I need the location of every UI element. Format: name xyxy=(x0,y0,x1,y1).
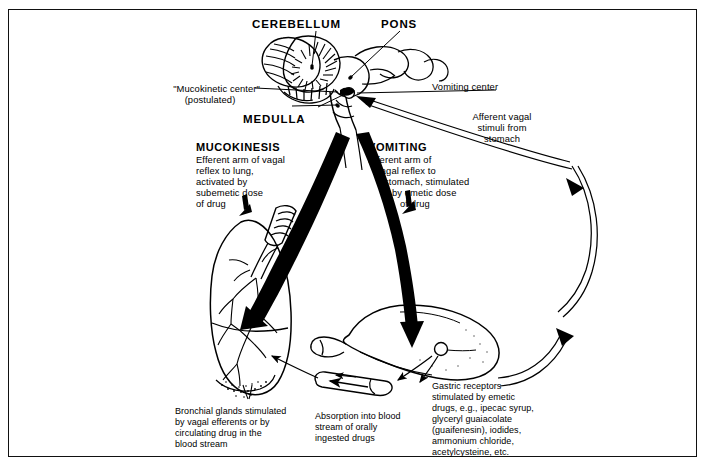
bronchial-line-4: blood stream xyxy=(175,439,228,449)
gastric-line-4: glyceryl guaiacolate xyxy=(432,414,512,424)
mucokinesis-line-2: reflex to lung, xyxy=(196,166,254,177)
drug-capsule-illustration xyxy=(315,372,392,396)
vomiting-line-4: by emetic dose xyxy=(392,188,456,199)
vomiting-heading: VOMITING xyxy=(368,141,427,153)
diagram-artwork xyxy=(0,0,709,467)
gastric-line-6: ammonium chloride, xyxy=(432,436,514,446)
afferent-line-1: Afferent vagal xyxy=(452,112,552,123)
bronchial-line-1: Bronchial glands stimulated xyxy=(175,406,286,416)
mucokinesis-line-1: Efferent arm of vagal xyxy=(196,155,285,166)
label-mucokinetic-center: "Mucokinetic center" xyxy=(148,84,260,95)
absorption-line-2: stream of orally xyxy=(315,422,377,432)
mucokinesis-line-5: of drug xyxy=(196,199,226,210)
afferent-line-3: stomach xyxy=(452,134,552,145)
figure-canvas: CEREBELLUM PONS "Mucokinetic center" (po… xyxy=(0,0,709,467)
mucokinesis-line-3: activated by xyxy=(196,177,247,188)
vomiting-line-3: stomach, stimulated xyxy=(384,177,469,188)
label-medulla: MEDULLA xyxy=(243,113,306,126)
gastric-line-5: (guaifenesin), iodides, xyxy=(432,425,521,435)
gastric-line-7: acetylcysteine, etc. xyxy=(432,447,509,457)
vomiting-line-1: Efferent arm of xyxy=(368,155,431,166)
bronchial-line-3: circulating drug in the xyxy=(175,428,262,438)
gastric-line-2: stimulated by emetic xyxy=(432,392,515,402)
label-pons: PONS xyxy=(381,18,417,31)
connector-arrows xyxy=(272,356,438,382)
absorption-line-3: ingested drugs xyxy=(315,433,375,443)
mucokinesis-heading: MUCOKINESIS xyxy=(196,141,280,153)
afferent-line-2: stimuli from xyxy=(452,123,552,134)
vomiting-line-2: vagal reflex to xyxy=(376,166,436,177)
gastric-line-3: drugs, e.g., ipecac syrup, xyxy=(432,403,534,413)
label-mucokinetic-center-postulated: (postulated) xyxy=(160,95,260,106)
label-cerebellum: CEREBELLUM xyxy=(252,18,341,31)
vomiting-line-5: of drug xyxy=(400,199,430,210)
bronchial-line-2: by vagal efferents or by xyxy=(175,417,270,427)
mucokinesis-line-4: subemetic dose xyxy=(196,188,263,199)
lung-illustration xyxy=(210,206,296,399)
label-vomiting-center: Vomiting center xyxy=(432,82,498,93)
absorption-line-1: Absorption into blood xyxy=(315,411,401,421)
gastric-line-1: Gastric receptors xyxy=(432,381,501,391)
